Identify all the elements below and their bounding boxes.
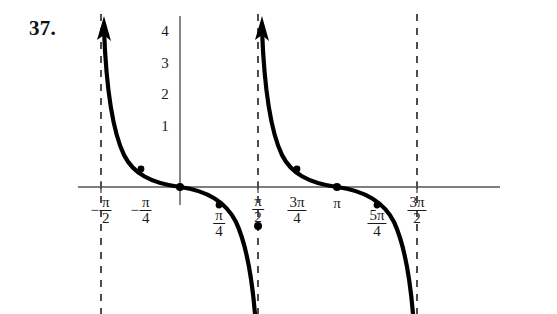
fraction-numerator: π xyxy=(252,194,264,210)
y-tick-label-4: 4 xyxy=(161,24,169,39)
fraction: π2 xyxy=(252,194,264,226)
minus-sign: − xyxy=(130,203,139,218)
fraction-numerator: π xyxy=(140,195,152,211)
x-tick-label-3pi-over-2: 3π2 xyxy=(407,195,426,227)
marked-point-neg-pi-over-4 xyxy=(138,166,145,173)
curve-branch-2 xyxy=(262,30,413,314)
x-tick-label-pi-over-2: π2 xyxy=(252,194,264,226)
cotangent-graph-plot xyxy=(0,0,557,314)
fraction-denominator: 2 xyxy=(407,211,426,226)
fraction: 5π4 xyxy=(367,208,386,240)
marked-point-origin xyxy=(176,183,184,191)
x-tick-label-neg-pi-over-2: −π2 xyxy=(90,195,111,227)
fraction-denominator: 2 xyxy=(252,210,264,225)
fraction-denominator: 4 xyxy=(213,224,225,239)
fraction: π2 xyxy=(100,195,112,227)
fraction-numerator: 3π xyxy=(407,195,426,211)
fraction-denominator: 4 xyxy=(287,211,306,226)
pi-symbol: π xyxy=(333,196,341,211)
fraction-denominator: 4 xyxy=(367,224,386,239)
minus-sign: − xyxy=(90,203,99,218)
x-tick-label-3pi-over-4: 3π4 xyxy=(287,195,306,227)
marked-point-pi xyxy=(333,183,341,191)
graph-figure: 37. 4 3 2 1 −π2 xyxy=(0,0,557,314)
y-tick-label-1: 1 xyxy=(161,119,169,134)
marked-point-3pi-over-4 xyxy=(294,166,301,173)
fraction-numerator: 5π xyxy=(367,208,386,224)
x-tick-label-pi: π xyxy=(333,196,341,212)
fraction-numerator: π xyxy=(100,195,112,211)
fraction: 3π2 xyxy=(407,195,426,227)
x-tick-label-pi-over-4: π4 xyxy=(213,208,225,240)
x-tick-label-5pi-over-4: 5π4 xyxy=(367,208,386,240)
fraction: π4 xyxy=(140,195,152,227)
y-tick-label-2: 2 xyxy=(161,87,169,102)
fraction: π4 xyxy=(213,208,225,240)
y-tick-label-3: 3 xyxy=(161,56,169,71)
fraction-denominator: 4 xyxy=(140,211,152,226)
x-tick-label-neg-pi-over-4: −π4 xyxy=(130,195,151,227)
fraction-numerator: π xyxy=(213,208,225,224)
fraction: 3π4 xyxy=(287,195,306,227)
fraction-denominator: 2 xyxy=(100,211,112,226)
fraction-numerator: 3π xyxy=(287,195,306,211)
